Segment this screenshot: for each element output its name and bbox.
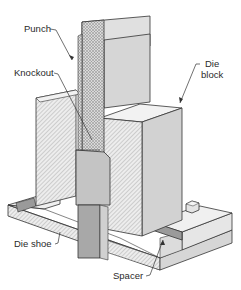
die-block <box>100 104 182 236</box>
label-die-shoe: Die shoe <box>14 238 52 249</box>
label-knockout: Knockout <box>14 67 54 78</box>
label-die-block-line2: block <box>201 69 223 80</box>
label-spacer: Spacer <box>113 270 143 281</box>
spacer-left <box>16 198 36 212</box>
leader-punch <box>50 29 72 60</box>
leader-die-block <box>180 64 200 103</box>
label-punch: Punch <box>24 23 51 34</box>
label-die-block-line1: Die <box>205 58 219 69</box>
die-block-left <box>36 90 80 206</box>
die-assembly-diagram: Punch Knockout Die block Die shoe Spacer <box>0 0 241 290</box>
bolt-icon <box>186 201 199 213</box>
knockout <box>76 150 110 205</box>
ejector-rod <box>78 205 108 260</box>
